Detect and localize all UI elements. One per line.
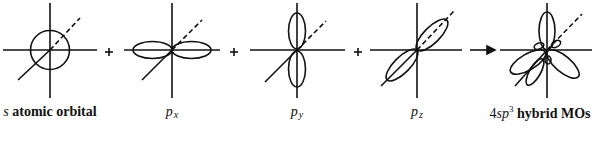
label-py: py bbox=[291, 104, 303, 120]
pz-orbital-figure bbox=[370, 3, 462, 98]
label-s-atomic-orbital: s atomic orbital bbox=[3, 104, 96, 120]
label-px: px bbox=[166, 104, 178, 120]
label-p-symbol: p bbox=[166, 104, 173, 119]
label-subscript-y: y bbox=[299, 109, 303, 120]
plus-icon bbox=[230, 48, 238, 56]
label-sp3-text: hybrid MOs bbox=[513, 106, 590, 121]
label-pz: pz bbox=[411, 104, 423, 120]
label-sp3-count: 4 bbox=[490, 106, 497, 121]
label-s-text: atomic orbital bbox=[9, 104, 97, 119]
label-p-symbol: p bbox=[411, 104, 418, 119]
sp3-hybrid-figure bbox=[500, 3, 592, 98]
plus-icon bbox=[105, 48, 113, 56]
label-subscript-x: x bbox=[174, 109, 178, 120]
label-sp-symbol: sp bbox=[497, 106, 509, 121]
py-orbital-figure bbox=[250, 3, 345, 98]
px-orbital-figure bbox=[124, 3, 220, 98]
label-subscript-z: z bbox=[419, 109, 423, 120]
label-p-symbol: p bbox=[291, 104, 298, 119]
arrow-right-icon bbox=[470, 46, 495, 54]
s-orbital-figure bbox=[3, 3, 97, 98]
label-sp3-hybrid: 4sp3 hybrid MOs bbox=[490, 104, 591, 122]
plus-icon bbox=[354, 48, 362, 56]
